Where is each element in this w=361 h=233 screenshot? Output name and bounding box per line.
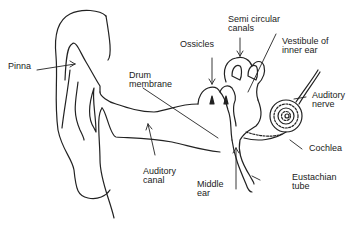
head-contour [99, 108, 114, 218]
canal-upper [100, 92, 198, 112]
pinna-inner-fold [65, 43, 100, 92]
ossicle-block [198, 87, 232, 140]
vestibule [239, 100, 260, 184]
ear-illustration [0, 0, 361, 233]
label-auditory-nerve: Auditory nerve [312, 91, 345, 109]
label-ossicles: Ossicles [180, 40, 214, 49]
cochlea-spiral [270, 100, 302, 132]
label-vestibule: Vestibule of inner ear [282, 37, 329, 55]
canal-lower [102, 108, 220, 152]
label-drum-membrane: Drum membrane [129, 71, 172, 89]
label-auditory-canal: Auditory canal [143, 167, 176, 185]
semicircular-canals [224, 57, 264, 100]
ear-diagram: Pinna Drum membrane Ossicles Semi circul… [0, 0, 361, 233]
eustachian-tube [232, 140, 252, 192]
pinna-outline [56, 10, 110, 198]
label-semi-circular-canals: Semi circular canals [228, 15, 280, 33]
label-middle-ear: Middle ear [197, 180, 224, 198]
label-cochlea: Cochlea [309, 144, 342, 153]
label-pinna: Pinna [8, 62, 31, 71]
label-eustachian-tube: Eustachian tube [292, 173, 337, 191]
pinna-helix [106, 16, 110, 60]
